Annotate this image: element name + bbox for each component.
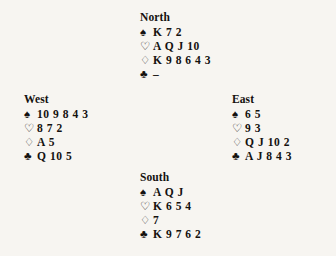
east-clubs-row: ♣ A J 8 4 3 [232,149,292,163]
east-diamonds-row: ♢ Q J 10 2 [232,135,292,149]
heart-icon: ♡ [140,39,152,53]
club-icon: ♣ [140,227,152,241]
south-hearts-row: ♡ K 6 5 4 [140,199,201,213]
heart-icon: ♡ [232,121,244,135]
east-diamonds-cards: Q J 10 2 [244,135,290,149]
west-clubs-row: ♣ Q 10 5 [24,149,89,163]
west-spades-cards: 10 9 8 4 3 [36,107,89,121]
west-clubs-cards: Q 10 5 [36,149,72,163]
west-hearts-row: ♡ 8 7 2 [24,121,89,135]
diamond-icon: ♢ [140,53,152,67]
club-icon: ♣ [232,149,244,163]
south-hearts-cards: K 6 5 4 [152,199,192,213]
seat-label-east: East [232,92,292,106]
west-hearts-cards: 8 7 2 [36,121,63,135]
north-hearts-cards: A Q J 10 [152,39,200,53]
east-spades-row: ♠ 6 5 [232,107,292,121]
seat-label-north: North [140,10,211,24]
south-diamonds-row: ♢ 7 [140,213,201,227]
west-diamonds-row: ♢ A 5 [24,135,89,149]
west-diamonds-cards: A 5 [36,135,55,149]
south-spades-cards: A Q J [152,185,184,199]
west-spades-row: ♠ 10 9 8 4 3 [24,107,89,121]
hand-south: South ♠ A Q J ♡ K 6 5 4 ♢ 7 ♣ K 9 7 6 2 [140,170,201,241]
north-spades-row: ♠ K 7 2 [140,25,211,39]
hand-west: West ♠ 10 9 8 4 3 ♡ 8 7 2 ♢ A 5 ♣ Q 10 5 [24,92,89,163]
south-clubs-cards: K 9 7 6 2 [152,227,201,241]
spade-icon: ♠ [232,107,244,121]
north-spades-cards: K 7 2 [152,25,182,39]
heart-icon: ♡ [24,121,36,135]
spade-icon: ♠ [24,107,36,121]
east-clubs-cards: A J 8 4 3 [244,149,292,163]
diamond-icon: ♢ [140,213,152,227]
hand-north: North ♠ K 7 2 ♡ A Q J 10 ♢ K 9 8 6 4 3 ♣… [140,10,211,81]
hand-east: East ♠ 6 5 ♡ 9 3 ♢ Q J 10 2 ♣ A J 8 4 3 [232,92,292,163]
north-diamonds-row: ♢ K 9 8 6 4 3 [140,53,211,67]
north-clubs-row: ♣ – [140,67,211,81]
diamond-icon: ♢ [24,135,36,149]
south-clubs-row: ♣ K 9 7 6 2 [140,227,201,241]
south-diamonds-cards: 7 [152,213,159,227]
east-hearts-row: ♡ 9 3 [232,121,292,135]
east-hearts-cards: 9 3 [244,121,261,135]
heart-icon: ♡ [140,199,152,213]
club-icon: ♣ [24,149,36,163]
north-hearts-row: ♡ A Q J 10 [140,39,211,53]
seat-label-south: South [140,170,201,184]
spade-icon: ♠ [140,25,152,39]
spade-icon: ♠ [140,185,152,199]
bridge-deal-diagram: North ♠ K 7 2 ♡ A Q J 10 ♢ K 9 8 6 4 3 ♣… [0,0,336,256]
seat-label-west: West [24,92,89,106]
south-spades-row: ♠ A Q J [140,185,201,199]
north-diamonds-cards: K 9 8 6 4 3 [152,53,211,67]
club-icon: ♣ [140,67,152,81]
east-spades-cards: 6 5 [244,107,261,121]
north-clubs-cards: – [152,67,159,81]
diamond-icon: ♢ [232,135,244,149]
